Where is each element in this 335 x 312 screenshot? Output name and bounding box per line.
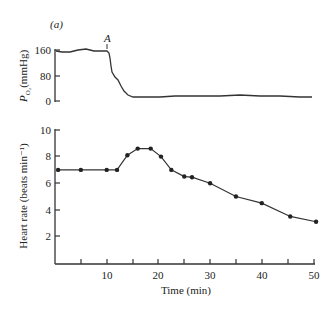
- data-point: [234, 194, 238, 198]
- po2-tick-0: 0: [46, 95, 52, 107]
- data-point: [260, 201, 264, 205]
- po2-trace: [56, 49, 312, 97]
- data-point: [208, 181, 212, 185]
- data-point: [314, 220, 318, 224]
- data-point: [115, 168, 119, 172]
- x-axis-label: Time (min): [161, 284, 211, 297]
- po2-y-label: PO₂(mmHg): [17, 50, 32, 103]
- hr-tick-2: 2: [46, 230, 52, 242]
- annotation-a: A: [103, 32, 111, 44]
- data-point: [182, 174, 186, 178]
- data-point: [79, 168, 83, 172]
- data-point: [125, 153, 129, 157]
- data-point: [288, 214, 292, 218]
- data-point: [56, 168, 60, 172]
- data-point: [105, 168, 109, 172]
- hr-tick-10: 10: [40, 124, 52, 136]
- data-point: [159, 154, 163, 158]
- po2-chart: 160 80 0 PO₂(mmHg) A: [17, 32, 312, 107]
- figure: (a) 160 80 0 PO₂(mmHg) A 10 8 6 4 2: [0, 0, 335, 312]
- data-point: [190, 175, 194, 179]
- svg-text:PO₂(mmHg): PO₂(mmHg): [17, 50, 32, 103]
- heart-rate-chart: 10 8 6 4 2 10 20 30 40 50 Time (min) Hea…: [17, 124, 320, 297]
- x-tick-20: 20: [153, 269, 165, 281]
- x-tick-50: 50: [309, 269, 321, 281]
- heart-rate-series: [56, 146, 318, 224]
- x-tick-40: 40: [257, 269, 269, 281]
- hr-tick-8: 8: [46, 150, 52, 162]
- data-point: [148, 146, 152, 150]
- data-point: [136, 146, 140, 150]
- po2-tick-80: 80: [40, 70, 52, 82]
- hr-tick-6: 6: [46, 177, 52, 189]
- x-tick-30: 30: [205, 269, 217, 281]
- hr-y-axis-label: Heart rate (beats min⁻¹): [17, 143, 30, 249]
- po2-tick-160: 160: [35, 44, 52, 56]
- panel-label: (a): [50, 18, 63, 31]
- heart-rate-line: [58, 149, 316, 222]
- hr-tick-4: 4: [46, 204, 52, 216]
- x-tick-10: 10: [102, 269, 114, 281]
- data-point: [169, 168, 173, 172]
